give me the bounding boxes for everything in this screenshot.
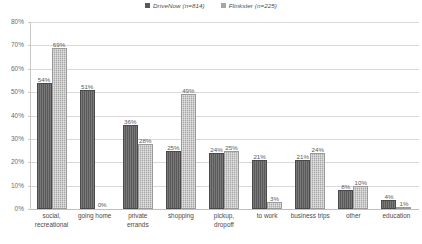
bar-groups: 54%69%51%0%36%28%25%49%24%25%21%3%21%24%…	[30, 22, 418, 209]
y-axis-label: 0%	[0, 205, 24, 212]
y-axis-tick	[28, 209, 31, 210]
bar-value-label: 24%	[210, 146, 222, 153]
bar-group: 4%1%	[375, 22, 418, 209]
bar: 3%	[267, 202, 282, 209]
x-axis-label: education	[375, 212, 418, 229]
bar-group: 25%49%	[159, 22, 202, 209]
bar: 21%	[295, 160, 310, 209]
bar-group: 54%69%	[30, 22, 73, 209]
y-axis-label: 60%	[0, 65, 24, 72]
bar: 49%	[181, 94, 196, 209]
bar: 10%	[353, 186, 368, 209]
legend-swatch-drivenow	[145, 3, 150, 8]
bar: 54%	[37, 83, 52, 209]
bar-group: 51%0%	[73, 22, 116, 209]
bar-group: 36%28%	[116, 22, 159, 209]
legend-item-flinkster: Flinkster (n=225)	[221, 2, 277, 9]
y-axis-label: 40%	[0, 112, 24, 119]
x-axis-label: to work	[246, 212, 289, 229]
bar: 1%	[396, 207, 411, 209]
bar: 36%	[123, 125, 138, 209]
bar-value-label: 36%	[124, 118, 136, 125]
bar-value-label: 54%	[38, 76, 50, 83]
bar: 24%	[310, 153, 325, 209]
y-axis-label: 30%	[0, 135, 24, 142]
bar: 21%	[252, 160, 267, 209]
bar-value-label: 25%	[225, 144, 237, 151]
legend-label-flinkster: Flinkster (n=225)	[229, 2, 277, 9]
bar: 25%	[224, 151, 239, 209]
bar-value-label: 25%	[167, 144, 179, 151]
bar-value-label: 69%	[53, 41, 65, 48]
y-axis-label: 20%	[0, 158, 24, 165]
y-axis-label: 50%	[0, 88, 24, 95]
bar: 51%	[80, 90, 95, 209]
bar-group: 21%24%	[289, 22, 332, 209]
bar-value-label: 21%	[297, 153, 309, 160]
x-axis-labels: social,recreationalgoing homeprivateerra…	[30, 212, 418, 229]
bar-group: 8%10%	[332, 22, 375, 209]
x-axis-label: shopping	[159, 212, 202, 229]
bar-value-label: 24%	[312, 146, 324, 153]
gridline	[31, 209, 419, 210]
y-axis-label: 10%	[0, 182, 24, 189]
x-axis-label: business trips	[289, 212, 332, 229]
chart-legend: DriveNow (n=814) Flinkster (n=225)	[0, 2, 422, 9]
x-axis-label: other	[332, 212, 375, 229]
bar-value-label: 10%	[355, 179, 367, 186]
bar-value-label: 8%	[341, 183, 350, 190]
bar-value-label: 28%	[139, 137, 151, 144]
bar-group: 24%25%	[202, 22, 245, 209]
legend-label-drivenow: DriveNow (n=814)	[153, 2, 205, 9]
bar: 25%	[166, 151, 181, 209]
legend-item-drivenow: DriveNow (n=814)	[145, 2, 205, 9]
y-axis-label: 80%	[0, 18, 24, 25]
bar-value-label: 49%	[182, 87, 194, 94]
bar: 24%	[209, 153, 224, 209]
bar-value-label: 51%	[81, 83, 93, 90]
bar: 4%	[381, 200, 396, 209]
x-axis-label: social,recreational	[30, 212, 73, 229]
bar: 28%	[138, 144, 153, 209]
bar-value-label: 21%	[253, 153, 265, 160]
x-axis-label: going home	[73, 212, 116, 229]
bar-chart: DriveNow (n=814) Flinkster (n=225) 80%70…	[0, 0, 422, 244]
y-axis-label: 70%	[0, 41, 24, 48]
legend-swatch-flinkster	[221, 3, 226, 8]
bar-value-label: 4%	[384, 193, 393, 200]
bar-group: 21%3%	[246, 22, 289, 209]
bar-value-label: 3%	[270, 195, 279, 202]
x-axis-label: pickup,dropoff	[202, 212, 245, 229]
x-axis-label: privateerrands	[116, 212, 159, 229]
bar-value-label: 1%	[399, 200, 408, 207]
bar-value-label: 0%	[98, 201, 107, 208]
bar: 8%	[338, 190, 353, 209]
bar: 69%	[52, 48, 67, 209]
